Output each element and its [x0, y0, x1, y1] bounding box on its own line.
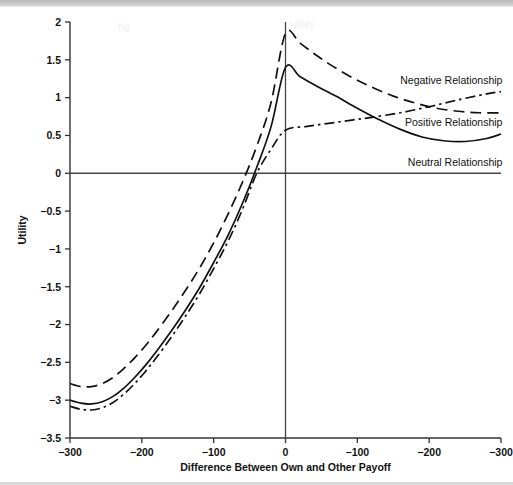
y-tick-label-1: 1.5 [46, 54, 61, 66]
axis-titles-group: Difference Between Own and Other PayoffU… [16, 215, 391, 473]
y-tick-label-9: −2.5 [40, 356, 61, 368]
y-tick-label-7: −1.5 [40, 281, 61, 293]
y-tick-label-8: −2 [49, 318, 61, 330]
series-labels-group: Negative RelationshipPositive Relationsh… [400, 74, 502, 168]
series-label-0: Negative Relationship [400, 74, 502, 86]
utility-chart-figure: 21.510.50−0.5−1−1.5−2−2.5−3−3.5−300−200−… [0, 0, 513, 485]
x-tick-label-3: 0 [283, 446, 289, 458]
y-tick-label-11: −3.5 [40, 432, 61, 444]
y-tick-label-4: 0 [55, 167, 61, 179]
x-axis-title: Difference Between Own and Other Payoff [180, 461, 391, 473]
series-label-2: Neutral Relationship [408, 156, 503, 168]
chart-canvas: 21.510.50−0.5−1−1.5−2−2.5−3−3.5−300−200−… [0, 0, 513, 485]
y-axis-title: Utility [16, 215, 28, 244]
x-tick-label-6: −300 [489, 446, 513, 458]
y-tick-label-5: −0.5 [40, 205, 61, 217]
y-tick-label-2: 1 [55, 91, 61, 103]
x-tick-label-5: −200 [417, 446, 441, 458]
x-tick-label-2: −100 [202, 446, 226, 458]
x-tick-label-0: −300 [58, 446, 82, 458]
x-tick-label-4: −100 [346, 446, 370, 458]
y-tick-label-6: −1 [49, 243, 61, 255]
y-tick-label-3: 0.5 [46, 129, 61, 141]
series-label-1: Positive Relationship [405, 116, 503, 128]
x-tick-label-1: −200 [130, 446, 154, 458]
y-tick-label-0: 2 [55, 16, 61, 28]
y-tick-label-10: −3 [49, 394, 61, 406]
